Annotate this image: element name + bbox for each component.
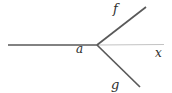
x-axis-label: x (155, 46, 162, 60)
diagram-canvas: a f g x (0, 0, 172, 93)
ray-f (97, 7, 146, 45)
function-g-label: g (111, 77, 119, 92)
branching-rays-diagram: a f g x (0, 0, 172, 93)
function-f-label: f (112, 1, 120, 16)
point-a-label: a (76, 42, 83, 56)
axis-right-segment (97, 45, 164, 46)
